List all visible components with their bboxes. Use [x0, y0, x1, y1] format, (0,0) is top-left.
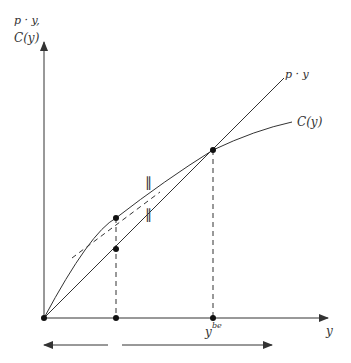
- cost-point: [113, 215, 119, 221]
- cost-curve: [44, 122, 292, 318]
- y-axis-label-line1: p · y,: [14, 14, 40, 27]
- y-axis-label-line2: C(y): [14, 31, 40, 45]
- parallel-mark-revenue: ∥: [145, 206, 152, 222]
- revenue-point: [113, 246, 119, 252]
- x-axis-label: y: [325, 324, 333, 338]
- breakeven-label: y: [204, 325, 212, 339]
- revenue-line: [44, 78, 284, 318]
- origin-point: [41, 315, 47, 321]
- parallel-mark-tangent: ∥: [145, 174, 152, 190]
- revenue-curve-label: p · y: [285, 68, 310, 81]
- cost-curve-label: C(y): [297, 115, 323, 129]
- breakeven-point: [210, 147, 216, 153]
- x-axis-point-y1: [113, 315, 119, 321]
- breakeven-diagram: ∥ ∥ p · y, C(y) p · y C(y) y y be: [0, 0, 351, 363]
- breakeven-superscript: be: [212, 321, 222, 330]
